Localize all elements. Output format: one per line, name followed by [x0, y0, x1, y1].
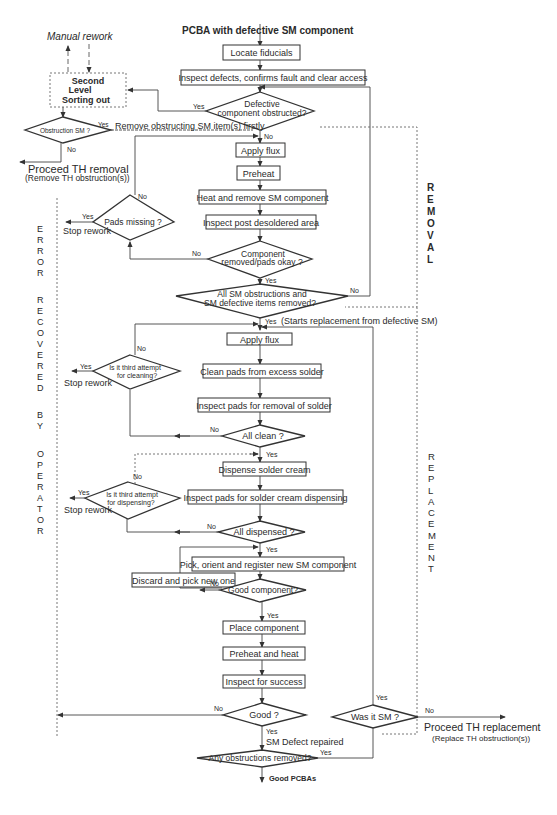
svg-text:B: B	[37, 410, 43, 420]
svg-text:O: O	[37, 449, 44, 459]
process-label: Preheat and heat	[229, 649, 299, 659]
svg-text:R: R	[37, 268, 44, 278]
decision-label: Obstruction SM ?	[40, 127, 91, 134]
flow-arrow	[20, 143, 61, 162]
decision-label: removed/pads okay ?	[221, 257, 303, 267]
svg-text:D: D	[37, 383, 44, 393]
rework-flowchart: PCBA with defective SM component Locate …	[0, 0, 557, 815]
svg-text:E: E	[428, 541, 434, 552]
svg-text:O: O	[427, 218, 435, 229]
svg-text:E: E	[37, 306, 43, 316]
svg-text:P: P	[37, 460, 43, 470]
process-label: Pick, orient and register new SM compone…	[180, 560, 357, 570]
proceed-th-replacement-sub: (Replace TH obstruction(s))	[432, 734, 530, 743]
svg-text:M: M	[427, 206, 435, 217]
no-label: No	[137, 345, 146, 352]
svg-text:C: C	[428, 507, 435, 518]
svg-text:M: M	[428, 530, 436, 541]
yes-label: Yes	[80, 363, 92, 370]
proceed-th-replacement-label: Proceed TH replacement	[424, 721, 541, 733]
process-label: Apply flux	[240, 335, 280, 345]
svg-text:R: R	[37, 361, 44, 371]
second-level-label: Sorting out	[62, 95, 110, 105]
svg-text:O: O	[37, 328, 44, 338]
end-label: Good PCBAs	[269, 774, 316, 783]
process-label: Locate fiducials	[230, 48, 293, 58]
decision-label: All clean ?	[242, 431, 284, 441]
starts-replacement-label: (Starts replacement from defective SM)	[281, 316, 438, 326]
process-label: Inspect defects, confirms fault and clea…	[178, 73, 368, 83]
stop-rework-label: Stop rework	[64, 378, 113, 388]
replacement-region-border	[380, 307, 417, 734]
svg-text:P: P	[428, 473, 434, 484]
remove-obstructing-label: Remove obstructing SM item(s) firstly	[115, 121, 265, 131]
decision-label: Good component?	[228, 585, 298, 595]
decision-label: Good ?	[249, 710, 279, 720]
process-label: Inspect post desoldered area	[203, 218, 319, 228]
svg-text:A: A	[428, 496, 435, 507]
process-label: Apply flux	[241, 146, 281, 156]
no-label: No	[214, 705, 223, 712]
svg-text:E: E	[428, 518, 434, 529]
removal-side-label: R E M O V A L	[427, 182, 435, 265]
process-label: Inspect pads for solder cream dispensing	[183, 493, 347, 503]
process-label: Clean pads from excess solder	[200, 367, 324, 377]
svg-text:Y: Y	[37, 421, 43, 431]
stop-rework-label: Stop rework	[63, 226, 112, 236]
no-label: No	[350, 287, 359, 294]
proceed-th-removal-sub: (Remove TH obstruction(s))	[25, 173, 130, 183]
replacement-side-label: R E P L A C E M E N T	[428, 451, 436, 574]
svg-text:E: E	[427, 194, 434, 205]
svg-text:R: R	[37, 295, 44, 305]
svg-text:R: R	[37, 526, 44, 536]
svg-text:C: C	[37, 317, 44, 327]
svg-text:O: O	[37, 257, 44, 267]
no-label: No	[210, 580, 219, 587]
svg-text:E: E	[37, 372, 43, 382]
svg-text:L: L	[427, 254, 433, 265]
decision-label: All dispensed ?	[233, 527, 294, 537]
process-label: Heat and remove SM component	[196, 193, 329, 203]
manual-rework-label: Manual rework	[47, 31, 114, 42]
yes-label: Yes	[266, 546, 278, 553]
stop-rework-label: Stop rework	[64, 505, 113, 515]
start-label: PCBA with defective SM component	[182, 25, 354, 36]
no-label: No	[67, 146, 76, 153]
svg-text:E: E	[37, 224, 43, 234]
svg-text:E: E	[37, 471, 43, 481]
svg-text:N: N	[428, 552, 435, 563]
svg-text:T: T	[37, 504, 43, 514]
process-label: Inspect for success	[225, 677, 303, 687]
yes-label: Yes	[193, 103, 205, 110]
decision-label: Is it third attempt	[106, 491, 158, 499]
svg-text:E: E	[37, 350, 43, 360]
decision-label: Any obstructions removed?	[209, 753, 312, 763]
svg-text:V: V	[37, 339, 43, 349]
process-label: Place component	[229, 623, 299, 633]
yes-label: Yes	[376, 694, 388, 701]
decision-label: for cleaning?	[117, 372, 157, 380]
svg-text:A: A	[427, 242, 434, 253]
process-label: Preheat	[243, 169, 275, 179]
sm-defect-repaired-label: SM Defect repaired	[266, 737, 344, 747]
error-recovered-side-label: E R R O R R E C O V E R E D B Y O P E R …	[37, 224, 44, 536]
svg-text:R: R	[37, 482, 44, 492]
no-label: No	[207, 523, 216, 530]
no-label: No	[264, 133, 273, 140]
yes-label: Yes	[266, 728, 278, 735]
yes-label: Yes	[265, 277, 277, 284]
decision-label: Was it SM ?	[351, 712, 399, 722]
yes-label: Yes	[265, 318, 277, 325]
svg-text:T: T	[428, 563, 434, 574]
svg-text:R: R	[427, 182, 435, 193]
yes-label: Yes	[82, 213, 94, 220]
yes-label: Yes	[266, 451, 278, 458]
yes-label: Yes	[98, 121, 109, 128]
process-label: Inspect pads for removal of solder	[196, 401, 332, 411]
decision-label: Pads missing ?	[104, 217, 162, 227]
decision-label: SM defective items removed?	[204, 298, 316, 308]
yes-label: Yes	[78, 489, 90, 496]
second-level-label: Level	[68, 85, 91, 95]
flow-arrow	[130, 390, 222, 436]
no-label: No	[210, 426, 219, 433]
